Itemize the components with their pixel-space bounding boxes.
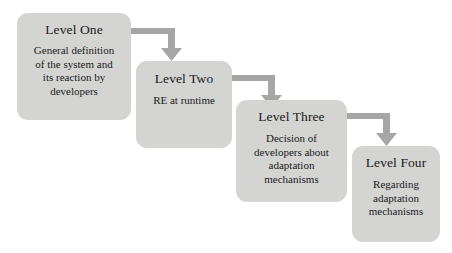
level-two-title: Level Two bbox=[155, 71, 214, 86]
level-two-body: RE at runtime bbox=[153, 94, 215, 108]
level-four-body-line: adaptation bbox=[369, 192, 423, 206]
level-one-body-line: General definition bbox=[34, 44, 114, 58]
level-four-body-line: mechanisms bbox=[369, 205, 423, 219]
level-one-body-line: its reaction by bbox=[34, 71, 114, 85]
level-three-title: Level Three bbox=[258, 109, 324, 124]
connector-one-to-two-arrow bbox=[128, 28, 188, 64]
level-four-body-line: Regarding bbox=[369, 178, 423, 192]
level-one-title: Level One bbox=[45, 22, 103, 37]
level-two-box[interactable]: Level Two RE at runtime bbox=[136, 61, 232, 148]
level-one-body-line: of the system and bbox=[34, 58, 114, 72]
level-four-body: Regarding adaptation mechanisms bbox=[369, 178, 423, 219]
level-four-title: Level Four bbox=[366, 155, 427, 170]
diagram-canvas: Level One General definition of the syst… bbox=[0, 0, 452, 253]
level-three-body-line: adaptation bbox=[254, 159, 329, 173]
connector-three-to-four-arrow bbox=[343, 113, 403, 149]
level-one-body: General definition of the system and its… bbox=[34, 44, 114, 98]
level-three-box[interactable]: Level Three Decision of developers about… bbox=[236, 100, 347, 202]
level-three-body-line: mechanisms bbox=[254, 173, 329, 187]
level-one-body-line: developers bbox=[34, 85, 114, 99]
level-three-body-line: Decision of bbox=[254, 132, 329, 146]
level-three-body: Decision of developers about adaptation … bbox=[254, 132, 329, 186]
level-three-body-line: developers about bbox=[254, 146, 329, 160]
level-four-box[interactable]: Level Four Regarding adaptation mechanis… bbox=[352, 146, 440, 242]
level-two-body-line: RE at runtime bbox=[153, 94, 215, 108]
level-one-box[interactable]: Level One General definition of the syst… bbox=[17, 13, 131, 120]
